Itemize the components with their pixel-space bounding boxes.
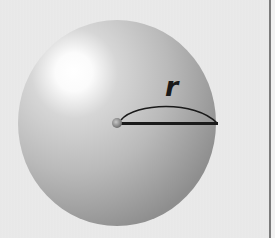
sphere-diagram: r [0,0,275,238]
center-point [112,118,122,128]
radius-label: r [165,71,180,102]
